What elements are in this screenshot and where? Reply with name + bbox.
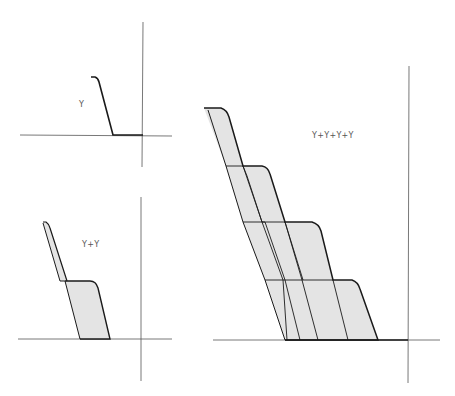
panel-double (18, 197, 172, 381)
y-axis (142, 22, 143, 167)
curve-y (91, 77, 143, 135)
panel-quadruple (204, 66, 440, 383)
x-axis (20, 135, 172, 136)
y-axis (408, 66, 409, 383)
label-double: Y+Y (82, 240, 99, 249)
label-quadruple: Y+Y+Y+Y (312, 131, 354, 140)
label-single: Y (79, 100, 84, 109)
panel-single (20, 22, 172, 167)
diagram-canvas (0, 0, 455, 396)
